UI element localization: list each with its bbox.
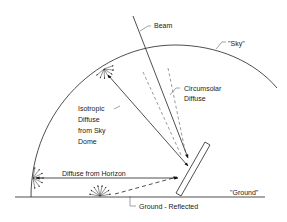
ground-reflected-ray	[115, 177, 177, 194]
isotropic-label-4: Dome	[78, 138, 97, 145]
ground-reflected-leader	[130, 196, 136, 206]
beam-ray	[133, 16, 188, 158]
circumsolar-label-1: Circumsolar	[184, 85, 222, 92]
horizon-emitter-fan-icon	[33, 167, 44, 189]
ground-reflected-label: Ground - Reflected	[139, 203, 198, 210]
radiation-diagram: Beam "Sky" Circumsolar Diffuse Isotropic…	[0, 0, 287, 222]
horizon-label: Diffuse from Horizon	[62, 170, 126, 177]
fan-ray	[33, 173, 43, 178]
circumsolar-ray-2	[168, 68, 186, 155]
tilted-surface	[176, 142, 210, 196]
circumsolar-label-2: Diffuse	[184, 95, 206, 102]
isotropic-leader	[114, 106, 120, 109]
circumsolar-leader	[170, 88, 180, 95]
isotropic-label-3: from Sky	[78, 127, 106, 135]
circumsolar-ray-1	[143, 72, 182, 157]
ground-emitter-fan-icon	[89, 185, 111, 196]
isotropic-label-2: Diffuse	[78, 116, 100, 123]
sky-emitter-fan-icon	[96, 66, 114, 79]
beam-label: Beam	[154, 22, 172, 29]
fan-ray	[104, 66, 113, 69]
sky-label: "Sky"	[228, 40, 245, 48]
isotropic-ray	[108, 75, 188, 166]
beam-leader	[140, 26, 151, 31]
fan-ray	[33, 178, 43, 183]
fan-ray	[104, 69, 109, 78]
sky-leader	[216, 42, 226, 49]
fan-ray	[104, 69, 105, 79]
isotropic-label-1: Isotropic	[78, 105, 105, 113]
ground-label: "Ground"	[230, 189, 259, 196]
